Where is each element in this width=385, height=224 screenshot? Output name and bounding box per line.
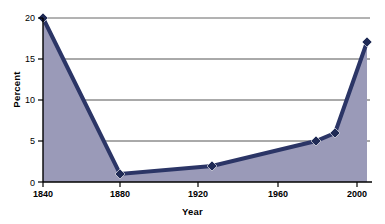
x-tick-label-1920: 1920 <box>188 189 208 199</box>
chart-plot-svg: 20 15 10 5 0 1840 1880 1920 1960 2000 <box>0 0 385 224</box>
x-tick-label-1840: 1840 <box>33 189 53 199</box>
y-tick-label-5: 5 <box>30 136 35 146</box>
x-tick-label-1880: 1880 <box>110 189 130 199</box>
y-axis-title: Percent <box>11 60 22 120</box>
y-tick-label-20: 20 <box>25 13 35 23</box>
x-tick-label-1960: 1960 <box>268 189 288 199</box>
x-axis-title: Year <box>0 206 385 217</box>
line-area-chart: 20 15 10 5 0 1840 1880 1920 1960 2000 Pe… <box>0 0 385 224</box>
y-tick-marks <box>38 18 43 182</box>
x-tick-marks <box>43 182 357 187</box>
y-tick-label-10: 10 <box>25 95 35 105</box>
y-tick-label-0: 0 <box>30 178 35 188</box>
y-tick-label-15: 15 <box>25 54 35 64</box>
x-tick-label-2000: 2000 <box>347 189 367 199</box>
